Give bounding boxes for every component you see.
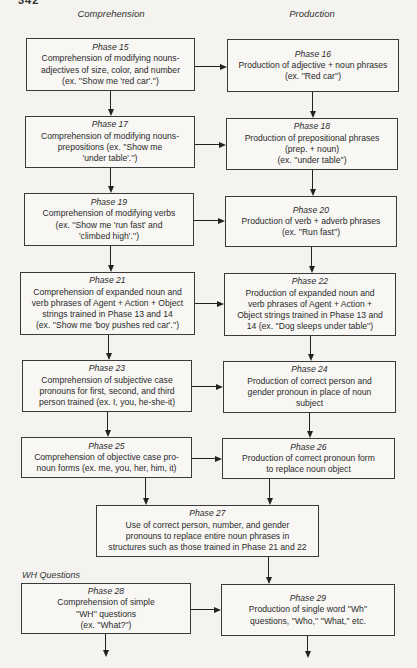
phase-21-description: Comprehension of expanded noun and verb … xyxy=(32,287,183,332)
page-number: 342 xyxy=(18,0,39,6)
phase-29-box: Phase 29 Production of single word ''Wh'… xyxy=(221,584,395,636)
phase-19-label: Phase 19 xyxy=(91,197,127,208)
phase-24-description: Production of correct person and gender … xyxy=(247,376,372,410)
phase-16-label: Phase 16 xyxy=(295,49,331,60)
phase-21-box: Phase 21 Comprehension of expanded noun … xyxy=(20,272,195,335)
phase-26-description: Production of correct pronoun form to re… xyxy=(242,453,375,476)
phase-18-description: Production of prepositional phrases (pre… xyxy=(245,133,380,167)
phase-18-box: Phase 18 Production of prepositional phr… xyxy=(226,118,398,170)
phase-29-label: Phase 29 xyxy=(290,593,326,604)
phase-22-label: Phase 22 xyxy=(292,276,328,287)
phase-29-description: Production of single word ''Wh'' questio… xyxy=(249,604,367,627)
phase-20-box: Phase 20 Production of verb + adverb phr… xyxy=(225,196,397,247)
phase-23-box: Phase 23 Comprehension of subjective cas… xyxy=(22,360,192,412)
phase-24-label: Phase 24 xyxy=(291,364,327,375)
phase-19-box: Phase 19 Comprehension of modifying verb… xyxy=(24,193,194,246)
phase-16-description: Production of adjective + noun phrases (… xyxy=(239,60,388,83)
phase-15-box: Phase 15 Comprehension of modifying noun… xyxy=(26,38,195,91)
phase-25-description: Comprehension of objective case pro- nou… xyxy=(34,452,179,475)
phase-17-box: Phase 17 Comprehension of modifying noun… xyxy=(25,116,195,168)
phase-28-label: Phase 28 xyxy=(88,586,124,597)
phase-28-box: Phase 28 Comprehension of simple ''WH'' … xyxy=(21,583,191,634)
phase-17-description: Comprehension of modifying nouns- prepos… xyxy=(41,131,179,165)
column-header-production: Production xyxy=(226,8,398,19)
phase-25-label: Phase 25 xyxy=(88,441,124,452)
phase-26-box: Phase 26 Production of correct pronoun f… xyxy=(222,438,395,479)
phase-15-description: Comprehension of modifying nouns- adject… xyxy=(41,53,180,87)
phase-21-label: Phase 21 xyxy=(89,275,125,286)
phase-26-label: Phase 26 xyxy=(290,442,326,453)
phase-16-box: Phase 16 Production of adjective + noun … xyxy=(227,39,399,92)
phase-18-label: Phase 18 xyxy=(294,121,330,132)
phase-28-description: Comprehension of simple ''WH'' questions… xyxy=(57,597,154,631)
phase-27-description: Use of correct person, number, and gende… xyxy=(108,520,306,554)
phase-23-label: Phase 23 xyxy=(89,363,125,374)
phase-24-box: Phase 24 Production of correct person an… xyxy=(223,361,396,413)
phase-25-box: Phase 25 Comprehension of objective case… xyxy=(21,437,192,478)
phase-15-label: Phase 15 xyxy=(92,42,128,53)
phase-20-description: Production of verb + adverb phrases (ex.… xyxy=(242,216,381,239)
phase-19-description: Comprehension of modifying verbs (ex. ''… xyxy=(43,208,176,242)
phase-27-label: Phase 27 xyxy=(189,508,225,519)
phase-27-box: Phase 27 Use of correct person, number, … xyxy=(96,505,319,557)
section-header-wh-questions: WH Questions xyxy=(22,570,80,580)
phase-23-description: Comprehension of subjective case pronoun… xyxy=(39,375,175,409)
phase-22-description: Production of expanded noun and verb phr… xyxy=(237,288,383,333)
phase-17-label: Phase 17 xyxy=(92,119,128,130)
column-header-comprehension: Comprehension xyxy=(26,8,196,19)
phase-20-label: Phase 20 xyxy=(293,205,329,216)
phase-22-box: Phase 22 Production of expanded noun and… xyxy=(224,273,396,336)
